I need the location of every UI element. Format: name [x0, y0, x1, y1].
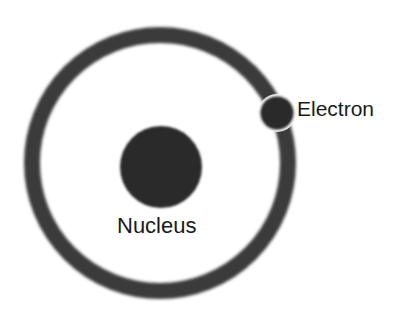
- electron-label: Electron: [297, 97, 374, 121]
- nucleus-circle: [120, 126, 202, 208]
- electron-circle: [261, 97, 294, 130]
- nucleus-label: Nucleus: [117, 213, 196, 239]
- atom-diagram: [0, 0, 406, 324]
